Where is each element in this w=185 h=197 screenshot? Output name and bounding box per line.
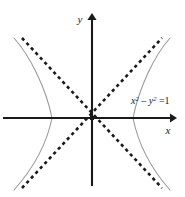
x-axis-label: x (165, 124, 171, 136)
plot-canvas: y x x2 – y2 =1 (0, 0, 185, 197)
hyperbola-figure: y x x2 – y2 =1 (0, 0, 185, 197)
x-axis-arrowhead (170, 113, 177, 122)
y-axis-arrowhead (87, 13, 96, 20)
equation-minus-operator: – (139, 95, 149, 106)
hyperbola-right-branch (133, 38, 170, 190)
y-axis-label: y (77, 13, 83, 25)
hyperbola-left-branch (14, 38, 52, 190)
origin-marker (90, 116, 94, 120)
equation-equals-one: =1 (156, 95, 169, 106)
